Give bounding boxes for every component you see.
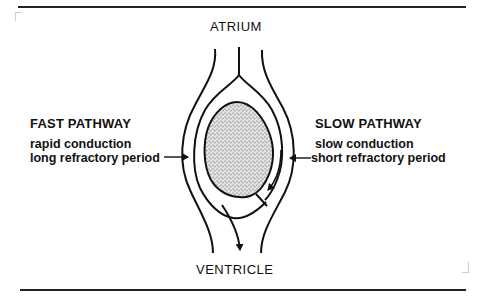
slow-pathway-line-2: short refractory period xyxy=(311,150,446,166)
slow-pathway-heading: SLOW PATHWAY xyxy=(315,116,422,131)
ventricle-label: VENTRICLE xyxy=(196,262,273,277)
fast-pathway-heading: FAST PATHWAY xyxy=(30,116,131,131)
atrium-label: ATRIUM xyxy=(210,19,262,34)
av-node-lens xyxy=(205,102,273,197)
fast-pathway-line-2: long refractory period xyxy=(30,150,160,166)
ventricle-arrow xyxy=(222,205,240,250)
